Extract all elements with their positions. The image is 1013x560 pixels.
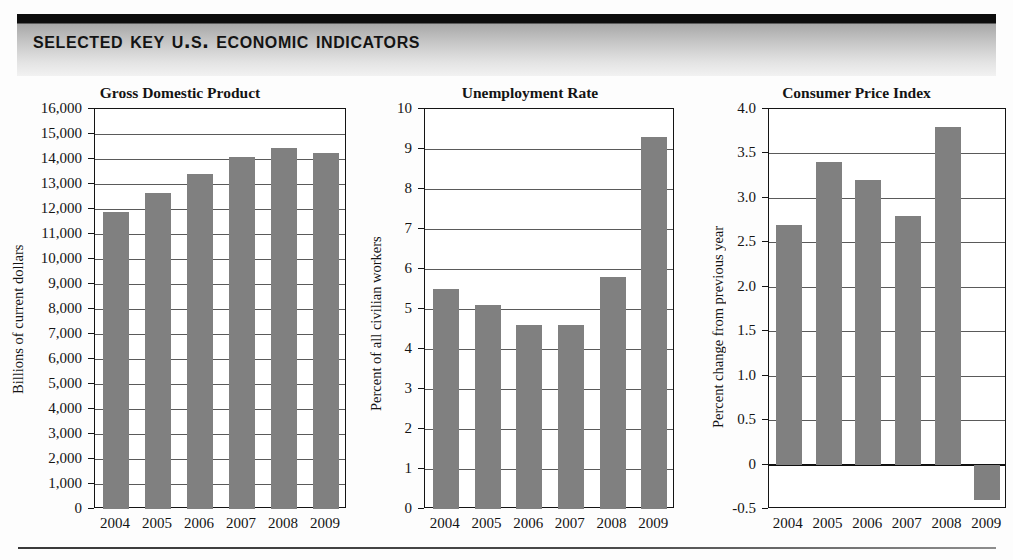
y-tick-mark [418, 428, 424, 429]
y-tick-label: 11,000 [0, 226, 82, 241]
y-tick-label: 8,000 [0, 301, 82, 316]
y-tick-mark [88, 158, 94, 159]
gridline [769, 420, 1005, 421]
y-tick-label: 5 [360, 301, 412, 316]
gridline [425, 269, 673, 270]
y-tick-mark [762, 152, 768, 153]
y-tick-mark [88, 183, 94, 184]
y-tick-label: 7 [360, 221, 412, 236]
bar [475, 305, 501, 509]
x-tick-label: 2008 [262, 516, 304, 531]
y-tick-label: 1 [360, 461, 412, 476]
y-tick-mark [418, 308, 424, 309]
gridline [425, 229, 673, 230]
y-tick-label: 6,000 [0, 351, 82, 366]
bar [187, 174, 213, 509]
gridline [425, 189, 673, 190]
bar [145, 193, 171, 509]
y-tick-mark [418, 188, 424, 189]
y-tick-mark [88, 408, 94, 409]
y-tick-mark [418, 468, 424, 469]
bar [895, 216, 921, 465]
gridline [95, 409, 345, 410]
y-tick-mark [762, 108, 768, 109]
bar [600, 277, 626, 509]
x-tick-label: 2006 [178, 516, 220, 531]
gridline [769, 198, 1005, 199]
y-tick-mark [88, 233, 94, 234]
y-tick-mark [88, 258, 94, 259]
bar [271, 148, 297, 509]
y-tick-label: 2.5 [700, 234, 756, 249]
gridline [769, 242, 1005, 243]
bar [516, 325, 542, 509]
x-tick-label: 2009 [632, 516, 674, 531]
gridline [769, 331, 1005, 332]
y-tick-label: 3,000 [0, 426, 82, 441]
y-tick-label: 7,000 [0, 326, 82, 341]
y-tick-label: 4,000 [0, 401, 82, 416]
chart-consumer-price-index: Consumer Price Index Percent change from… [700, 84, 1013, 534]
y-tick-label: 9 [360, 141, 412, 156]
gridline [95, 484, 345, 485]
x-tick-label: 2008 [591, 516, 633, 531]
y-tick-mark [88, 508, 94, 509]
bar [103, 212, 129, 510]
y-tick-mark [762, 330, 768, 331]
y-tick-mark [762, 508, 768, 509]
x-tick-label: 2005 [136, 516, 178, 531]
gridline [425, 149, 673, 150]
gridline [769, 153, 1005, 154]
x-tick-label: 2009 [304, 516, 346, 531]
y-tick-mark [762, 286, 768, 287]
y-tick-mark [418, 108, 424, 109]
gridline [95, 209, 345, 210]
y-tick-label: 8 [360, 181, 412, 196]
y-tick-label: 0 [700, 457, 756, 472]
y-tick-mark [418, 348, 424, 349]
y-tick-label: 0 [0, 501, 82, 516]
y-axis-label: Percent of all civilian workers [368, 204, 385, 444]
plot-area [424, 108, 674, 508]
y-tick-label: 13,000 [0, 176, 82, 191]
x-tick-label: 2007 [887, 516, 927, 531]
gridline [95, 159, 345, 160]
y-tick-mark [762, 419, 768, 420]
y-tick-mark [762, 464, 768, 465]
gridline [95, 234, 345, 235]
y-tick-mark [88, 483, 94, 484]
y-tick-mark [418, 508, 424, 509]
y-tick-mark [88, 208, 94, 209]
y-tick-label: 6 [360, 261, 412, 276]
bar [776, 225, 802, 465]
y-tick-label: 9,000 [0, 276, 82, 291]
y-tick-mark [88, 433, 94, 434]
y-tick-mark [88, 108, 94, 109]
x-tick-label: 2006 [847, 516, 887, 531]
y-tick-label: 12,000 [0, 201, 82, 216]
y-tick-label: 2.0 [700, 279, 756, 294]
bar [974, 465, 1000, 501]
y-tick-mark [88, 383, 94, 384]
y-tick-mark [762, 375, 768, 376]
footer-rule [18, 547, 996, 549]
bar [641, 137, 667, 509]
bar [855, 180, 881, 464]
zero-axis-line [769, 464, 1005, 466]
x-tick-label: 2009 [966, 516, 1006, 531]
bar [313, 153, 339, 510]
y-tick-label: 0.5 [700, 412, 756, 427]
gridline [95, 259, 345, 260]
x-tick-label: 2007 [549, 516, 591, 531]
gridline [95, 434, 345, 435]
y-tick-label: 2 [360, 421, 412, 436]
gridline [425, 309, 673, 310]
y-tick-label: 1,000 [0, 476, 82, 491]
gridline [95, 309, 345, 310]
y-tick-label: 4 [360, 341, 412, 356]
x-tick-label: 2008 [927, 516, 967, 531]
gridline [769, 376, 1005, 377]
y-tick-label: 3.5 [700, 145, 756, 160]
y-tick-label: -0.5 [700, 501, 756, 516]
gridline [95, 459, 345, 460]
